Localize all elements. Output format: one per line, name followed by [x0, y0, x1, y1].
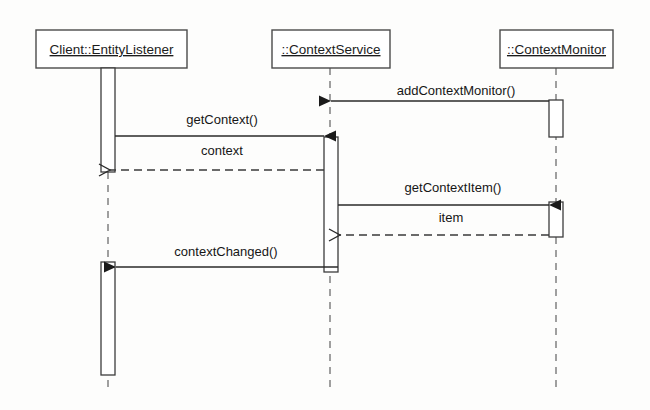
lifeline-label-context-monitor: ::ContextMonitor [507, 42, 607, 57]
activation-bar-context-service-1[interactable] [324, 137, 338, 272]
message-label-context-changed: contextChanged() [174, 244, 277, 259]
activation-bar-context-monitor-1[interactable] [549, 100, 563, 137]
message-label-get-context-item: getContextItem() [405, 180, 502, 195]
message-label-get-context: getContext() [186, 112, 258, 127]
message-label-item-return: item [439, 210, 464, 225]
activation-bar-entity-listener-2[interactable] [101, 262, 115, 375]
message-label-context-return: context [201, 143, 243, 158]
message-get-context-item[interactable]: getContextItem() [338, 180, 561, 211]
message-add-context-monitor[interactable]: addContextMonitor() [319, 83, 549, 107]
sequence-diagram-canvas: Client::EntityListener::ContextService::… [0, 0, 650, 410]
sequence-diagram-svg: Client::EntityListener::ContextService::… [0, 0, 650, 410]
message-item-return[interactable]: item [329, 210, 549, 241]
arrowhead-solid-add-context-monitor [319, 96, 331, 107]
activations-layer [101, 68, 563, 375]
message-label-add-context-monitor: addContextMonitor() [397, 83, 516, 98]
activation-bar-entity-listener-1[interactable] [101, 68, 115, 172]
lifeline-label-entity-listener: Client::EntityListener [50, 42, 174, 57]
message-context-return[interactable]: context [99, 143, 324, 176]
lifeline-label-context-service: ::ContextService [281, 42, 380, 57]
message-context-changed[interactable]: contextChanged() [104, 244, 338, 273]
message-get-context[interactable]: getContext() [115, 112, 336, 142]
